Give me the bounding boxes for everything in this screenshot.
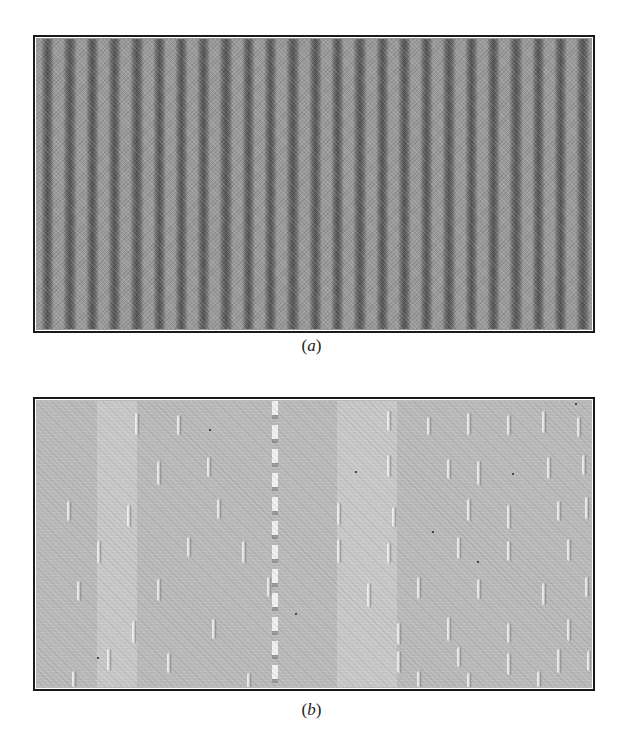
ridge-mark (417, 671, 422, 687)
ridge-mark (507, 653, 512, 675)
light-band (97, 401, 137, 687)
dark-stripe (41, 39, 54, 329)
dark-stripe (442, 39, 455, 329)
figure-panel-a (33, 35, 595, 333)
ridge-mark (557, 649, 562, 673)
ridge-mark (387, 543, 392, 563)
dark-stripe (242, 39, 255, 329)
dark-stripe (309, 39, 322, 329)
ridge-mark (97, 541, 102, 563)
ridge-mark (427, 417, 432, 435)
dust-speck (477, 561, 479, 563)
ridge-mark (567, 619, 572, 641)
dust-speck (432, 531, 434, 533)
dark-stripe (353, 39, 366, 329)
vertical-stripes (37, 39, 591, 329)
ridge-mark (387, 411, 392, 431)
ridge-mark (337, 503, 342, 525)
ridge-mark (135, 413, 140, 435)
ridge-mark (557, 501, 562, 521)
ridge-mark (67, 501, 72, 521)
ridge-mark (467, 413, 472, 435)
ridge-mark (477, 461, 482, 485)
dust-speck (97, 657, 99, 659)
dark-stripe (554, 39, 567, 329)
ridge-mark (467, 499, 472, 521)
ridge-mark (157, 579, 162, 601)
ridge-mark (507, 505, 512, 529)
dark-stripe (130, 39, 143, 329)
ridge-mark (585, 497, 590, 519)
ridge-mark (187, 537, 192, 557)
dark-stripe (331, 39, 344, 329)
ridge-mark (337, 539, 342, 563)
ridge-mark (217, 499, 222, 519)
ridge-mark (447, 617, 452, 641)
ridge-mark (72, 671, 77, 687)
ridge-mark (397, 651, 402, 673)
dark-stripe (576, 39, 589, 329)
ridge-mark (157, 461, 162, 485)
ridge-mark (267, 577, 272, 597)
dark-stripe (420, 39, 433, 329)
ridge-mark (212, 619, 217, 639)
caption-b-close-paren: ) (316, 700, 322, 719)
ridge-mark (207, 457, 212, 477)
ridge-mark (387, 455, 392, 477)
ridge-mark (247, 673, 252, 687)
dark-stripe (63, 39, 76, 329)
dark-stripe (219, 39, 232, 329)
dark-stripe (532, 39, 545, 329)
ridge-mark (167, 653, 172, 673)
dark-stripe (509, 39, 522, 329)
ridge-mark (392, 507, 397, 527)
dust-speck (355, 471, 357, 473)
caption-a-close-paren: ) (316, 336, 322, 355)
dark-stripe (264, 39, 277, 329)
dark-stripe (398, 39, 411, 329)
ridge-mark (582, 455, 587, 475)
dust-speck (512, 473, 514, 475)
ridge-mark (397, 623, 402, 645)
ridge-mark (507, 541, 512, 561)
dust-speck (575, 403, 577, 405)
ridge-mark (537, 671, 542, 687)
dark-stripe (487, 39, 500, 329)
ridge-mark (447, 459, 452, 479)
dark-stripe (197, 39, 210, 329)
ridge-mark (542, 411, 547, 433)
ridge-mark (132, 621, 137, 643)
panel-b-image (37, 401, 591, 687)
ridge-mark (507, 415, 512, 435)
ridge-mark (587, 651, 591, 671)
caption-a-letter: a (307, 336, 316, 355)
caption-b-letter: b (307, 700, 316, 719)
ridge-mark (177, 415, 182, 435)
ridge-mark (547, 457, 552, 479)
dark-stripe (286, 39, 299, 329)
ridge-mark (242, 541, 247, 563)
dashed-ridge-line (272, 401, 278, 687)
ridge-mark (585, 577, 590, 597)
dark-stripe (175, 39, 188, 329)
dark-stripe (86, 39, 99, 329)
ridge-mark (457, 647, 462, 667)
ridge-mark (507, 623, 512, 643)
dust-speck (295, 613, 297, 615)
ridge-mark (477, 579, 482, 599)
caption-b: (b) (0, 700, 623, 720)
ridge-mark (577, 417, 582, 437)
dust-speck (209, 429, 211, 431)
ridge-mark (467, 673, 472, 687)
figure-panel-b (33, 397, 595, 691)
panel-a-image (37, 39, 591, 329)
ridge-mark (567, 539, 572, 561)
ridge-mark (417, 577, 422, 599)
ridge-mark (127, 505, 132, 527)
dark-stripe (376, 39, 389, 329)
ridge-mark (457, 537, 462, 559)
dark-stripe (108, 39, 121, 329)
dark-stripe (465, 39, 478, 329)
ridge-mark (77, 581, 82, 601)
ridge-mark (107, 649, 112, 671)
